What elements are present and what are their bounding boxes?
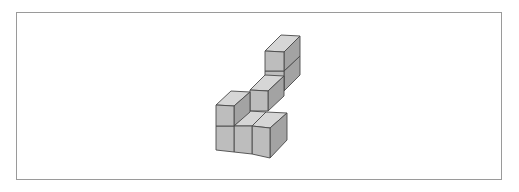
cube-bottom-left: [216, 126, 234, 152]
cube-middle-step: [250, 75, 284, 111]
cube-structure-diagram: [0, 0, 519, 192]
